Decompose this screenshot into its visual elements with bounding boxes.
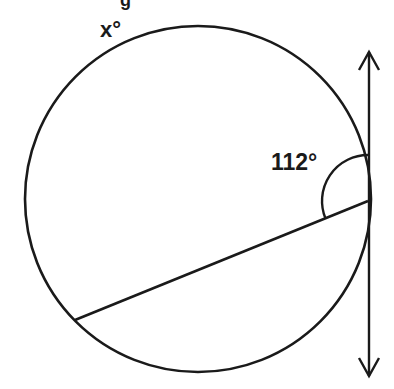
cropped-heading-fragment: g (120, 0, 131, 10)
chord (75, 201, 368, 320)
arc-label-x: x° (100, 17, 121, 42)
angle-arc (322, 155, 368, 218)
angle-label-112: 112° (271, 149, 317, 175)
tangent-line (359, 52, 379, 376)
geometry-diagram: g x° 112° (0, 0, 394, 389)
